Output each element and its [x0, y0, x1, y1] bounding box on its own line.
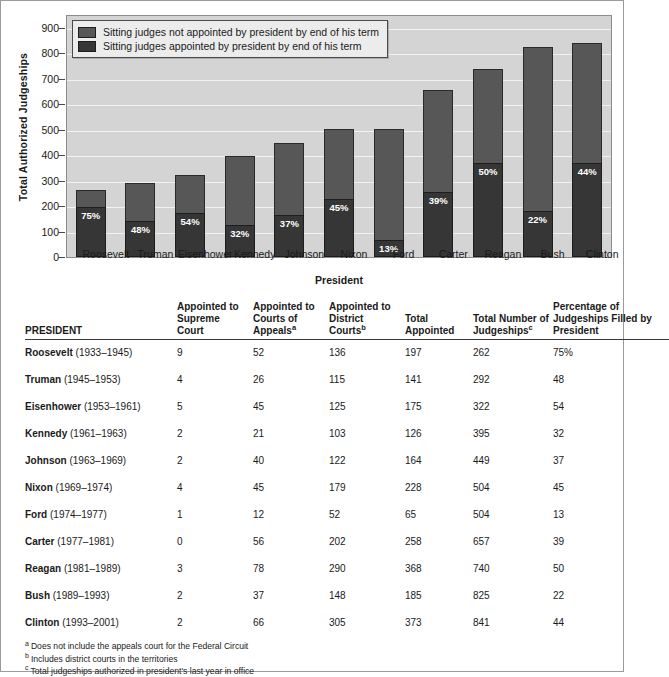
x-axis-title: President: [66, 274, 612, 286]
president-years: (1993–2001): [59, 617, 119, 628]
cell-district: 52: [329, 502, 405, 529]
table-row: Roosevelt (1933–1945)95213619726275%: [25, 340, 669, 368]
table-row: Truman (1945–1953)42611514129248: [25, 367, 669, 394]
cell-president: Bush (1989–1993): [25, 583, 177, 610]
cell-district: 179: [329, 475, 405, 502]
y-tick-label: 200: [15, 200, 59, 212]
cell-supreme: 0: [177, 529, 253, 556]
cell-total-appointed: 175: [405, 394, 473, 421]
bar-segment-not-appointed: [473, 69, 503, 163]
bar-percentage-label: 54%: [176, 216, 204, 227]
cell-district: 148: [329, 583, 405, 610]
bar-segment-not-appointed: [423, 90, 453, 192]
y-tick-mark: [58, 257, 65, 258]
bar-percentage-label: 44%: [573, 166, 601, 177]
col-header-percentage-text: Percentage of Judgeships Filled by Presi…: [553, 301, 652, 336]
stacked-bar: 39%: [423, 90, 453, 257]
president-years: (1953–1961): [81, 401, 141, 412]
table-row: Reagan (1981–1989)37829036874050: [25, 556, 669, 583]
cell-percentage: 32: [553, 421, 669, 448]
cell-total-appointed: 126: [405, 421, 473, 448]
bar-percentage-label: 50%: [474, 166, 502, 177]
bar-segment-not-appointed: [324, 129, 354, 200]
president-name: Reagan: [25, 563, 61, 574]
cell-total-number: 504: [473, 502, 553, 529]
y-tick-label: 700: [15, 73, 59, 85]
president-years: (1933–1945): [73, 347, 133, 358]
y-tick-label: 100: [15, 226, 59, 238]
cell-appeals: 40: [253, 448, 329, 475]
bar-segment-not-appointed: [225, 156, 255, 225]
stacked-bar: 13%: [374, 129, 404, 257]
table-header-row: PRESIDENT Appointed to Supreme Court App…: [25, 301, 669, 340]
cell-supreme: 1: [177, 502, 253, 529]
footnote-marker-a: a: [292, 322, 296, 331]
cell-percentage: 37: [553, 448, 669, 475]
col-header-appeals: Appointed to Courts of Appealsa: [253, 301, 329, 340]
footnote: bIncludes district courts in the territo…: [25, 653, 599, 665]
table-row: Ford (1974–1977)112526550413: [25, 502, 669, 529]
stacked-bar: 37%: [274, 143, 304, 257]
bar-percentage-label: 22%: [524, 214, 552, 225]
cell-total-number: 504: [473, 475, 553, 502]
legend-label: Sitting judges appointed by president by…: [103, 40, 362, 52]
cell-percentage: 39: [553, 529, 669, 556]
footnote-text: Does not include the appeals court for t…: [31, 641, 248, 651]
president-years: (1977–1981): [54, 536, 114, 547]
bar-segment-not-appointed: [76, 190, 106, 207]
col-header-district-text: Appointed to District Courts: [329, 301, 391, 336]
president-name: Johnson: [25, 455, 67, 466]
president-name: Bush: [25, 590, 50, 601]
x-tick-label: Clinton: [564, 248, 640, 260]
cell-president: Kennedy (1961–1963): [25, 421, 177, 448]
stacked-bar: 54%: [175, 175, 205, 257]
cell-total-number: 825: [473, 583, 553, 610]
y-tick-mark: [58, 53, 65, 54]
bar-percentage-label: 48%: [126, 224, 154, 235]
cell-president: Ford (1974–1977): [25, 502, 177, 529]
cell-president: Johnson (1963–1969): [25, 448, 177, 475]
footnote-text: Includes district courts in the territor…: [31, 654, 178, 664]
y-tick-mark: [58, 206, 65, 207]
president-years: (1974–1977): [47, 509, 107, 520]
cell-appeals: 45: [253, 394, 329, 421]
stacked-bar: 22%: [523, 47, 553, 257]
bar-segment-not-appointed: [523, 47, 553, 211]
y-tick-label: 800: [15, 47, 59, 59]
cell-percentage: 75%: [553, 340, 669, 368]
cell-total-number: 395: [473, 421, 553, 448]
table-row: Johnson (1963–1969)24012216444937: [25, 448, 669, 475]
legend-swatch-appointed: [78, 41, 96, 52]
president-name: Clinton: [25, 617, 59, 628]
footnote-marker: b: [25, 652, 29, 659]
cell-percentage: 13: [553, 502, 669, 529]
cell-supreme: 2: [177, 583, 253, 610]
y-tick-mark: [58, 130, 65, 131]
president-years: (1961–1963): [67, 428, 127, 439]
footnote-text: Total judgeships authorized in president…: [31, 666, 255, 676]
cell-president: Roosevelt (1933–1945): [25, 340, 177, 368]
president-name: Ford: [25, 509, 47, 520]
cell-total-appointed: 258: [405, 529, 473, 556]
table-row: Eisenhower (1953–1961)54512517532254: [25, 394, 669, 421]
footnote: aDoes not include the appeals court for …: [25, 640, 599, 652]
cell-president: Eisenhower (1953–1961): [25, 394, 177, 421]
president-name: Eisenhower: [25, 401, 81, 412]
cell-district: 305: [329, 610, 405, 637]
col-header-total-appointed-text: Total Appointed: [405, 313, 454, 336]
cell-president: Carter (1977–1981): [25, 529, 177, 556]
bar-percentage-label: 75%: [77, 210, 105, 221]
legend-swatch-not-appointed: [78, 27, 96, 38]
y-tick-label: 300: [15, 175, 59, 187]
bar-segment-not-appointed: [125, 183, 155, 222]
president-name: Nixon: [25, 482, 53, 493]
stacked-bar: 44%: [572, 43, 602, 257]
cell-percentage: 22: [553, 583, 669, 610]
cell-president: Truman (1945–1953): [25, 367, 177, 394]
cell-district: 122: [329, 448, 405, 475]
footnote-marker-c: c: [529, 322, 533, 331]
cell-percentage: 44: [553, 610, 669, 637]
cell-total-appointed: 141: [405, 367, 473, 394]
table-row: Kennedy (1961–1963)22110312639532: [25, 421, 669, 448]
bar-chart: Total Authorized Judgeships 010020030040…: [1, 1, 623, 301]
